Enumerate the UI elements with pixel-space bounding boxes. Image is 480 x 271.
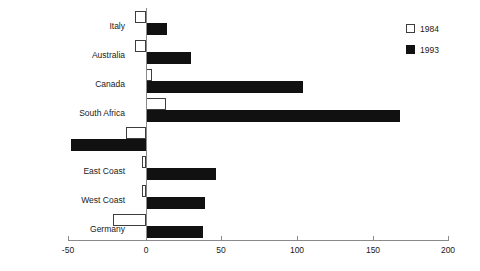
bar-australia-1984: [135, 40, 146, 52]
bar-italy-1993: [146, 23, 167, 35]
x-tick-label-200: 200: [428, 245, 468, 255]
x-tick-label-150: 150: [353, 245, 393, 255]
category-label-australia: Australia: [15, 50, 125, 60]
x-tick-label-0: 0: [126, 245, 166, 255]
bar-chart: Italy Australia Canada South Africa Japa…: [0, 0, 480, 271]
category-label-east-coast: East Coast: [15, 166, 125, 176]
legend-label-1993: 1993: [420, 45, 439, 55]
bar-germany-1984: [113, 214, 146, 226]
x-tick-mark-200: [448, 236, 449, 240]
category-label-canada: Canada: [15, 79, 125, 89]
x-axis-line: [68, 240, 449, 241]
x-tick-mark-minus50: [68, 236, 69, 240]
x-tick-mark-150: [373, 236, 374, 240]
x-tick-label-minus50: -50: [48, 245, 88, 255]
category-label-west-coast: West Coast: [15, 195, 125, 205]
bar-south-africa-1984: [146, 98, 166, 110]
x-tick-mark-50: [221, 236, 222, 240]
bar-west-coast-1993: [146, 197, 205, 209]
bar-germany-1993: [146, 226, 203, 238]
bar-australia-1993: [146, 52, 191, 64]
zero-axis-line: [146, 8, 147, 241]
x-tick-mark-0: [146, 236, 147, 240]
bar-canada-1993: [146, 81, 303, 93]
x-tick-label-100: 100: [277, 245, 317, 255]
category-label-germany: Germany: [15, 224, 125, 234]
x-tick-label-50: 50: [201, 245, 241, 255]
legend-label-1984: 1984: [420, 24, 439, 34]
legend-item-1984: 1984: [406, 18, 439, 39]
filled-square-icon: [406, 45, 415, 54]
bar-japan-1993: [71, 139, 147, 151]
hollow-square-icon: [406, 24, 415, 33]
bar-italy-1984: [135, 11, 146, 23]
legend: 1984 1993: [406, 18, 439, 60]
category-label-italy: Italy: [15, 21, 125, 31]
bar-east-coast-1993: [146, 168, 216, 180]
legend-item-1993: 1993: [406, 39, 439, 60]
bar-japan-1984: [126, 127, 146, 139]
bar-south-africa-1993: [146, 110, 400, 122]
category-label-south-africa: South Africa: [15, 108, 125, 118]
x-tick-mark-100: [297, 236, 298, 240]
plot-area: Italy Australia Canada South Africa Japa…: [0, 0, 480, 271]
